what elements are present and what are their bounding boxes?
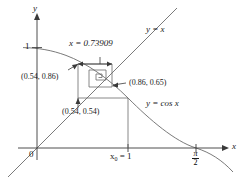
y-tick-one-label: 1: [25, 41, 30, 51]
right-point-arrow-icon: [112, 83, 118, 88]
x-start-label: x0 = 1: [110, 151, 132, 162]
y-axis-label: y: [33, 3, 37, 13]
identity-line-label: y = x: [146, 24, 165, 34]
x-axis-label: x: [232, 141, 236, 151]
fixed-point-leader-arrow-right-icon: [107, 62, 112, 67]
x-start-equals: = 1: [118, 151, 132, 161]
pi-over-two-label: π 2: [192, 150, 199, 167]
point-label-right: (0.86, 0.65): [129, 78, 166, 87]
pi-numerator: π: [192, 150, 199, 158]
point-label-upper-left: (0.54, 0.86): [21, 72, 58, 81]
point-label-lower: (0.54, 0.54): [62, 107, 99, 116]
origin-label: 0: [29, 149, 34, 159]
two-denominator: 2: [192, 159, 199, 167]
y-axis-arrow-icon: [34, 13, 40, 20]
fixed-point-label: x = 0.73909: [69, 38, 113, 48]
x-axis-arrow-icon: [222, 145, 229, 151]
lower-point-arrow-icon: [76, 98, 81, 104]
cosine-curve-label: y = cos x: [146, 98, 179, 108]
